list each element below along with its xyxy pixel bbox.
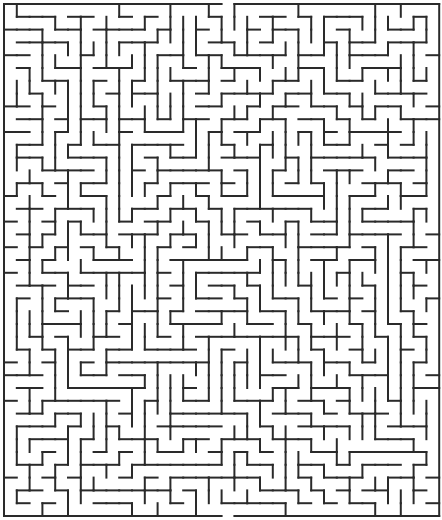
maze-grid (0, 0, 442, 520)
